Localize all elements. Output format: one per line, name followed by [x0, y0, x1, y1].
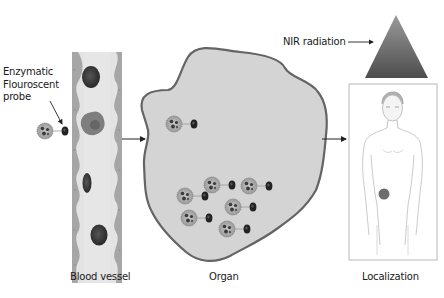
- stage-label-localization: Localization: [362, 271, 419, 284]
- stage-label-blood-vessel: Blood vessel: [70, 271, 130, 284]
- stage-label-organ: Organ: [209, 271, 239, 284]
- probe-pointer-arrow: [50, 101, 62, 124]
- probe-label-line2: Flouroscent: [3, 79, 59, 92]
- blood-vessel: [72, 52, 122, 283]
- red-blood-cell: [91, 225, 108, 246]
- free-probe: [37, 123, 68, 139]
- nir-radiation-label: NIR radiation: [283, 36, 346, 49]
- red-blood-cell: [83, 173, 92, 193]
- probe-label: Enzymatic Flouroscent probe: [3, 66, 59, 104]
- probe-label-line3: probe: [3, 91, 59, 104]
- localization-panel: [349, 84, 437, 260]
- localized-tumor-spot: [379, 189, 390, 200]
- probe-label-line1: Enzymatic: [3, 66, 59, 79]
- diagram-canvas: [0, 0, 444, 298]
- red-blood-cell: [82, 66, 100, 88]
- nir-radiation-triangle: [365, 15, 428, 78]
